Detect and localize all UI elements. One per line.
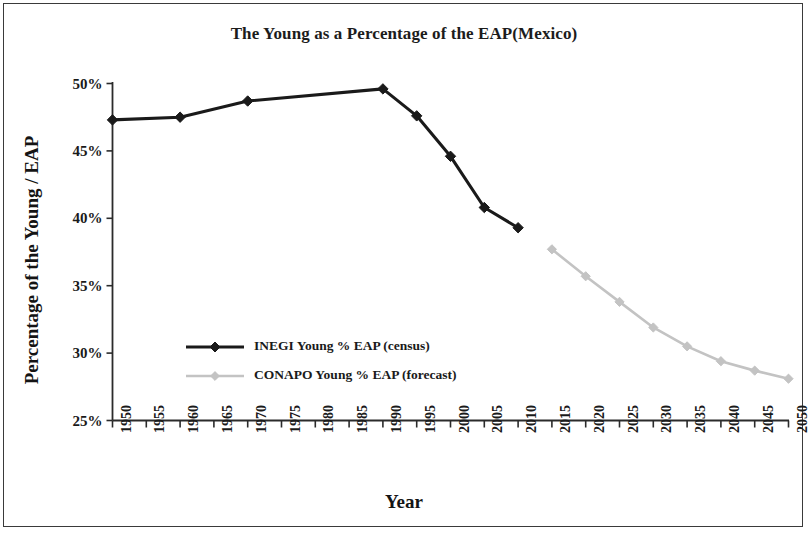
- x-axis-tick-label: 2000: [457, 405, 473, 433]
- x-axis-tick-label: 2030: [659, 405, 675, 433]
- x-axis-tick-label: 2005: [490, 405, 506, 433]
- x-axis-tick-label: 1985: [355, 405, 371, 433]
- plot-area: 25%30%35%40%45%50%1950195519601965197019…: [0, 0, 809, 533]
- y-axis-tick-label: 35%: [43, 277, 103, 294]
- chart-canvas: [0, 0, 809, 533]
- legend-label-1: INEGI Young % EAP (census): [254, 338, 430, 354]
- x-axis-tick-label: 2010: [524, 405, 540, 433]
- legend-swatch-marker-2: [211, 372, 220, 381]
- x-axis-tick-label: 1965: [220, 405, 236, 433]
- legend-label-2: CONAPO Young % EAP (forecast): [254, 367, 457, 383]
- data-point-marker: [107, 115, 117, 125]
- y-axis-tick-label: 40%: [43, 210, 103, 227]
- y-axis-tick-label: 25%: [43, 412, 103, 429]
- x-axis-tick-label: 1970: [254, 405, 270, 433]
- series-line-1: [113, 89, 519, 228]
- x-axis-tick-label: 2020: [592, 405, 608, 433]
- data-point-marker: [750, 366, 759, 375]
- data-point-marker: [784, 374, 793, 383]
- x-axis-tick-label: 1995: [423, 405, 439, 433]
- legend-swatch-marker-1: [210, 342, 220, 352]
- x-axis-tick-label: 2025: [626, 405, 642, 433]
- x-axis-tick-label: 1955: [152, 405, 168, 433]
- x-axis-tick-label: 2040: [727, 405, 743, 433]
- data-point-marker: [175, 112, 185, 122]
- x-axis-tick-label: 1975: [288, 405, 304, 433]
- x-axis-tick-label: 2035: [693, 405, 709, 433]
- data-point-marker: [716, 357, 725, 366]
- x-axis-tick-label: 1960: [186, 405, 202, 433]
- x-axis-tick-label: 2045: [761, 405, 777, 433]
- y-axis-tick-label: 30%: [43, 345, 103, 362]
- y-axis-tick-label: 50%: [43, 75, 103, 92]
- y-axis-tick-label: 45%: [43, 142, 103, 159]
- x-axis-tick-label: 1990: [389, 405, 405, 433]
- series-line-2: [552, 249, 789, 378]
- x-axis-tick-label: 1950: [119, 405, 135, 433]
- x-axis-tick-label: 1980: [321, 405, 337, 433]
- x-axis-tick-label: 2050: [795, 405, 809, 433]
- data-point-marker: [243, 96, 253, 106]
- x-axis-tick-label: 2015: [558, 405, 574, 433]
